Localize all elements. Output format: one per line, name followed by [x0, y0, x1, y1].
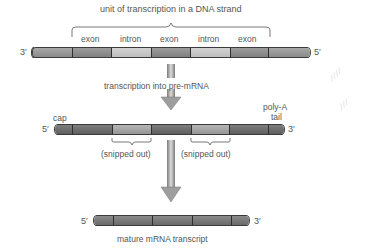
mature-3prime-label: 3′ — [254, 217, 261, 226]
mature-cap — [94, 216, 114, 225]
dna-exon-1 — [73, 48, 113, 57]
mature-mrna-strand — [93, 215, 250, 226]
snipped-out-label-2: (snipped out) — [181, 150, 231, 159]
transcription-unit-brace — [0, 0, 374, 40]
label-exon-2: exon — [160, 35, 178, 44]
dna-flank-left — [33, 48, 73, 57]
label-intron-2: intron — [198, 35, 219, 44]
pre-mrna-exon-3 — [230, 125, 269, 134]
pre-mrna-cap — [55, 125, 73, 134]
label-exon-3: exon — [238, 35, 256, 44]
dna-exon-2 — [152, 48, 191, 57]
mature-mrna-caption: mature mRNA transcript — [117, 235, 208, 244]
pre-mrna-intron-2 — [192, 125, 231, 134]
pre-mrna-poly-a-tail — [269, 125, 284, 134]
splicing-arrow — [157, 140, 187, 210]
dna-intron-1 — [112, 48, 152, 57]
mature-exon-1 — [114, 216, 153, 225]
mature-poly-a-tail — [232, 216, 249, 225]
tail-label: tail — [271, 113, 282, 122]
dna-exon-3 — [231, 48, 270, 57]
watermark-mark-1: ⁄ ⁄ ⁄ ⁄ — [329, 67, 344, 82]
transcription-step-label: transcription into pre-mRNA — [104, 82, 209, 91]
label-intron-1: intron — [120, 35, 141, 44]
pre-mrna-intron-1 — [113, 125, 153, 134]
mature-exon-2 — [153, 216, 192, 225]
dna-intron-2 — [191, 48, 231, 57]
mature-5prime-label: 5′ — [81, 217, 88, 226]
pre-mrna-exon-2 — [152, 125, 192, 134]
watermark-mark-2: ⁄ ⁄ ⁄ — [338, 98, 350, 110]
dna-strand — [32, 47, 311, 58]
label-exon-1: exon — [81, 35, 99, 44]
pre-mrna-exon-1 — [73, 125, 113, 134]
dna-flank-right — [269, 48, 310, 57]
mature-exon-3 — [193, 216, 232, 225]
dna-3prime-label: 3′ — [20, 48, 27, 57]
pre-mrna-strand — [54, 124, 285, 135]
cap-label: cap — [53, 114, 67, 123]
snipped-out-label-1: (snipped out) — [101, 150, 151, 159]
pre-mrna-5prime-label: 5′ — [42, 125, 49, 134]
poly-a-label: poly-A — [263, 103, 287, 112]
pre-mrna-3prime-label: 3′ — [288, 125, 295, 134]
dna-5prime-label: 5′ — [314, 48, 321, 57]
